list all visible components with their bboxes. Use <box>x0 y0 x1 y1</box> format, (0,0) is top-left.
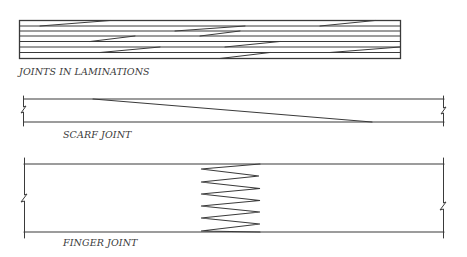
lamination-lines <box>20 26 401 53</box>
laminations-figure <box>20 21 401 59</box>
break-line-left-icon <box>21 158 27 238</box>
scarf-joint-label: SCARF JOINT <box>63 129 132 140</box>
laminations-label: JOINTS IN LAMINATIONS <box>19 66 150 77</box>
finger-joint-figure <box>21 158 446 238</box>
break-line-right-icon <box>440 158 446 238</box>
finger-zigzag <box>201 164 260 232</box>
scarf-joint-figure <box>21 96 446 126</box>
finger-joint-label: FINGER JOINT <box>63 237 138 248</box>
scarf-diagonal-joint <box>93 99 372 122</box>
